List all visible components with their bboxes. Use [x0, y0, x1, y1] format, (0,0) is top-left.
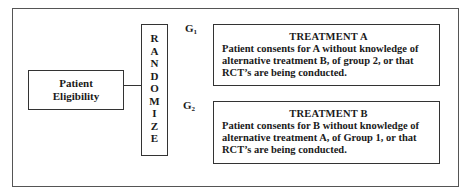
- randomize-letter: R: [151, 32, 159, 45]
- eligibility-to-randomize-connector: [123, 85, 141, 86]
- group-2-label: G2: [183, 99, 195, 113]
- treatment-b-line-3: RCT’s are being conducted.: [222, 144, 435, 156]
- treatment-a-line-1: Patient consents for A without knowledge…: [222, 43, 435, 55]
- treatment-b-line-1: Patient consents for B without knowledge…: [222, 120, 435, 132]
- patient-eligibility-box: Patient Eligibility: [28, 70, 124, 110]
- randomize-letter: D: [151, 70, 159, 83]
- treatment-b-title: TREATMENT B: [222, 108, 435, 120]
- randomize-letter: I: [152, 107, 156, 120]
- randomize-letter: N: [151, 57, 159, 70]
- treatment-b-box: TREATMENT B Patient consents for B witho…: [213, 101, 440, 164]
- group-label-letter: G: [183, 99, 192, 111]
- treatment-a-title: TREATMENT A: [222, 31, 435, 43]
- treatment-a-line-3: RCT’s are being conducted.: [222, 67, 435, 79]
- group-1-label: G1: [185, 22, 197, 36]
- group-label-letter: G: [185, 22, 194, 34]
- randomize-box: R A N D O M I Z E: [141, 24, 168, 156]
- group-label-subscript: 2: [192, 105, 196, 113]
- treatment-a-line-2: alternative treatment B, of group 2, or …: [222, 55, 435, 67]
- eligibility-line-1: Patient: [59, 77, 93, 90]
- group-label-subscript: 1: [194, 28, 198, 36]
- randomize-letter: M: [149, 95, 159, 108]
- randomize-letter: E: [151, 132, 158, 145]
- randomize-letter: O: [150, 82, 159, 95]
- treatment-a-box: TREATMENT A Patient consents for A witho…: [213, 24, 440, 86]
- eligibility-line-2: Eligibility: [53, 90, 99, 103]
- randomize-letter: Z: [151, 120, 158, 133]
- randomize-letter: A: [151, 45, 159, 58]
- treatment-b-line-2: alternative treatment A, of Group 1, or …: [222, 132, 435, 144]
